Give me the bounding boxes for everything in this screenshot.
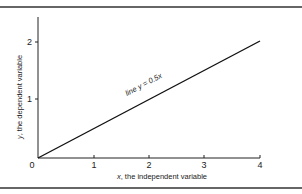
data-line — [38, 41, 260, 158]
line-annotation: line y = 0.5x — [124, 71, 164, 98]
x-tick-label: 1 — [91, 160, 96, 170]
x-axis-label: x, the independent variable — [116, 172, 207, 181]
y-axis-label: y, the dependent variable — [15, 55, 24, 140]
origin-label: 0 — [29, 160, 34, 170]
x-tick-label: 2 — [146, 160, 151, 170]
chart: 2 1 1 2 3 4 0 line y = 0.5x x, the indep… — [0, 0, 302, 194]
y-tick-label: 1 — [27, 94, 32, 104]
x-tick-label: 4 — [257, 160, 262, 170]
y-tick-label: 2 — [27, 37, 32, 47]
x-tick-label: 3 — [201, 160, 206, 170]
